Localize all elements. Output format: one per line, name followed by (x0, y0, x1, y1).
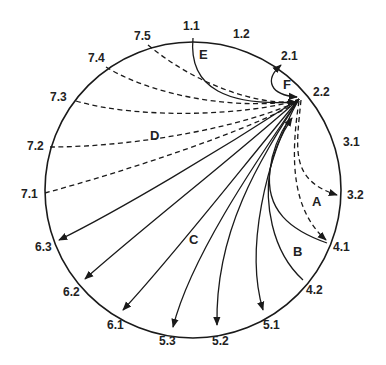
region-label-e: E (199, 47, 208, 62)
label-6.2: 6.2 (63, 285, 80, 299)
group-a-dashed (294, 100, 337, 240)
label-7.1: 7.1 (21, 187, 38, 201)
group-d-dashed (45, 45, 298, 193)
label-5.1: 5.1 (263, 318, 280, 332)
region-label-d: D (150, 128, 159, 143)
label-5.2: 5.2 (212, 334, 229, 348)
label-7.4: 7.4 (88, 51, 105, 65)
outer-circle (45, 42, 341, 338)
label-3.2: 3.2 (347, 188, 364, 202)
label-5.3: 5.3 (159, 334, 176, 348)
label-7.3: 7.3 (50, 90, 67, 104)
label-2.1: 2.1 (281, 49, 298, 63)
point-labels: 1.1 1.2 2.1 2.2 3.1 3.2 4.1 4.2 5.1 5.2 … (21, 19, 364, 348)
label-2.2: 2.2 (313, 85, 330, 99)
region-label-c: C (189, 232, 199, 247)
region-label-f: F (283, 77, 291, 92)
label-1.1: 1.1 (183, 19, 200, 33)
region-label-a: A (312, 194, 322, 209)
label-1.2: 1.2 (233, 27, 250, 41)
label-7.5: 7.5 (134, 29, 151, 43)
label-4.2: 4.2 (306, 283, 323, 297)
label-6.3: 6.3 (35, 240, 52, 254)
label-3.1: 3.1 (343, 135, 360, 149)
label-7.2: 7.2 (27, 139, 44, 153)
label-6.1: 6.1 (107, 318, 124, 332)
region-label-b: B (293, 244, 302, 259)
label-4.1: 4.1 (333, 240, 350, 254)
group-c-solid (59, 99, 299, 327)
circular-transition-diagram: 1.1 1.2 2.1 2.2 3.1 3.2 4.1 4.2 5.1 5.2 … (0, 0, 386, 365)
